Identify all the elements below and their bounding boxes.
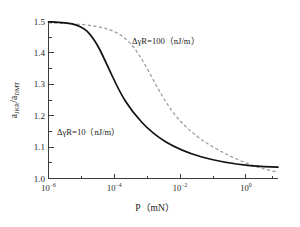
y-tick-label: 1.4 <box>34 48 46 58</box>
x-tick-label: 10−6 <box>41 182 56 193</box>
x-axis-title: P（mN） <box>135 202 175 213</box>
y-tick-label: 1.3 <box>34 79 46 89</box>
y-tickmarks <box>49 22 54 179</box>
x-tick-label: 100 <box>240 182 252 193</box>
series-annotation-dashed: ΔγR=100（nJ/m） <box>132 36 200 46</box>
x-tick-labels: 10−6 10−4 10−2 100 <box>41 182 251 193</box>
y-axis-title: aJKR/aDMT <box>9 82 20 118</box>
y-tick-label: 1.0 <box>34 174 46 184</box>
y-tick-labels: 1.0 1.1 1.2 1.3 1.4 1.5 <box>34 17 46 184</box>
x-tick-label: 10−2 <box>173 182 188 193</box>
chart-canvas: 1.0 1.1 1.2 1.3 1.4 1.5 10−6 10−4 10−2 1… <box>0 0 300 227</box>
y-tick-label: 1.5 <box>34 17 46 27</box>
y-tick-label: 1.2 <box>34 111 45 121</box>
x-tickmarks <box>49 174 273 179</box>
x-tick-label: 10−4 <box>107 182 122 193</box>
y-tick-label: 1.1 <box>34 142 45 152</box>
chart-figure: 1.0 1.1 1.2 1.3 1.4 1.5 10−6 10−4 10−2 1… <box>0 0 300 227</box>
series-annotation-solid: ΔγR=10（nJ/m） <box>57 127 120 137</box>
